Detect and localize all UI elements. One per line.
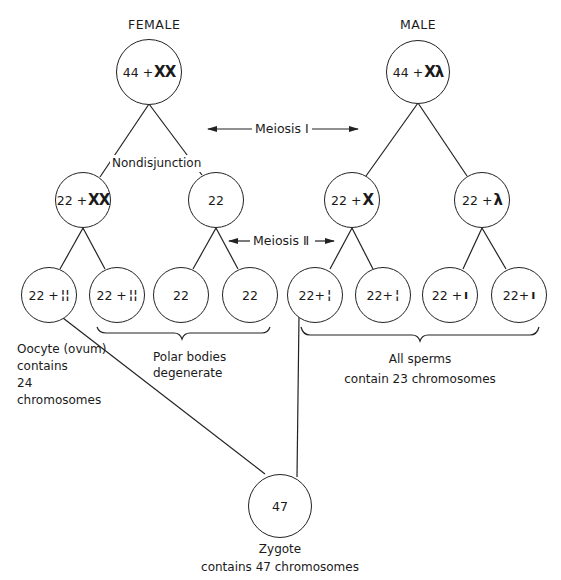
- oocyte-label: Oocyte (ovum) contains 24 chromosomes: [17, 341, 107, 409]
- male-m1-cell-1: 22 + Χ: [324, 172, 380, 228]
- zygote-caption-line: Zygote: [180, 540, 380, 558]
- line-sperm-to-zygote: [297, 316, 299, 477]
- female-m1-cell-1: 22 + ΧΧ: [55, 172, 111, 228]
- sperm-cell-3: 22 + ı: [422, 267, 478, 323]
- sperm-cell-2: 22+ ¦: [355, 267, 411, 323]
- sex-chromosome-xx-icon: ΧΧ: [154, 63, 175, 81]
- autosome-count: 22: [242, 288, 258, 303]
- polar-body-cell-3: 22: [222, 267, 278, 323]
- autosome-count: 22 +: [28, 288, 58, 303]
- male-header: MALE: [400, 16, 436, 33]
- zygote-cell: 47: [248, 474, 312, 538]
- sperm-cell-1: 22+ ¦: [287, 267, 343, 323]
- sex-chromosome-xy-icon: Χλ: [424, 63, 443, 81]
- nondisjunction-label: Nondisjunction: [110, 155, 203, 172]
- autosome-count: 22 +: [96, 288, 126, 303]
- autosome-count: 22+: [299, 288, 325, 303]
- sperms-label-line: All sperms: [320, 349, 520, 369]
- chromatid-y-icon: ı: [464, 288, 468, 302]
- chromatid-x-icon: ¦: [327, 288, 331, 302]
- meiosis1-label: Meiosis Ⅰ: [252, 122, 312, 136]
- sex-chromosome-x-icon: Χ: [362, 191, 373, 209]
- sex-chromosome-y-icon: λ: [493, 191, 502, 209]
- autosome-count: 44 +: [393, 65, 423, 80]
- autosome-count: 22+: [367, 288, 393, 303]
- autosome-count: 22+: [503, 288, 529, 303]
- oocyte-cell: 22 + ¦¦: [21, 267, 77, 323]
- sex-chromosome-xx-icon: ΧΧ: [88, 191, 109, 209]
- male-m1-cell-2: 22 + λ: [454, 172, 510, 228]
- autosome-count: 22: [173, 288, 189, 303]
- autosome-count: 22 +: [331, 193, 361, 208]
- oocyte-label-line: 24: [17, 375, 107, 392]
- autosome-count: 44 +: [123, 65, 153, 80]
- line-male-m1-right: [418, 103, 467, 176]
- polar-bodies-brace: [97, 327, 270, 339]
- chromatid-y-icon: ı: [531, 288, 535, 302]
- female-header: FEMALE: [128, 16, 180, 33]
- female-m1-cell-2: 22: [188, 172, 244, 228]
- polar-bodies-label: Polar bodies degenerate: [153, 349, 226, 381]
- zygote-caption: Zygote contains 47 chromosomes: [180, 540, 380, 576]
- oocyte-label-line: contains: [17, 358, 107, 375]
- line-male-m1-left: [366, 103, 418, 176]
- meiosis2-label: Meiosis Ⅱ: [250, 234, 312, 248]
- zygote-caption-line: contains 47 chromosomes: [180, 558, 380, 576]
- chromatid-pair-icon: ¦¦: [61, 288, 70, 302]
- chromatid-x-icon: ¦: [395, 288, 399, 302]
- chromatid-pair-icon: ¦¦: [129, 288, 138, 302]
- oocyte-label-line: Oocyte (ovum): [17, 341, 107, 358]
- female-parent-cell: 44 + ΧΧ: [116, 39, 182, 105]
- autosome-count: 22: [208, 193, 224, 208]
- sperms-label-line: contain 23 chromosomes: [320, 369, 520, 389]
- autosome-count: 22 +: [57, 193, 87, 208]
- zygote-chromosome-count: 47: [272, 499, 288, 514]
- sperm-cell-4: 22+ ı: [491, 267, 547, 323]
- polar-bodies-label-line: Polar bodies: [153, 349, 226, 365]
- sperms-label: All sperms contain 23 chromosomes: [320, 349, 520, 389]
- polar-body-cell-1: 22 + ¦¦: [89, 267, 145, 323]
- polar-body-cell-2: 22: [153, 267, 209, 323]
- autosome-count: 22 +: [462, 193, 492, 208]
- polar-bodies-label-line: degenerate: [153, 365, 226, 381]
- autosome-count: 22 +: [432, 288, 462, 303]
- oocyte-label-line: chromosomes: [17, 392, 107, 409]
- male-parent-cell: 44 + Χλ: [386, 40, 450, 104]
- sperms-brace: [301, 327, 539, 341]
